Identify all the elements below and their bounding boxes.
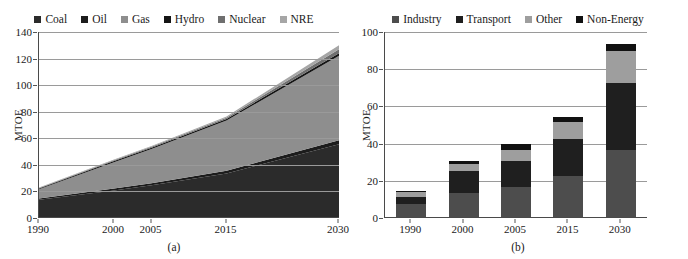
gridline [39,112,339,113]
bar-group-2000[interactable] [449,32,479,217]
bar-segment-non-energy[interactable] [396,191,426,192]
x-tick-label: 2000 [452,223,474,235]
y-tick-label: 80 [21,106,32,118]
bar-group-2005[interactable] [501,32,531,217]
legend-item-label: Coal [45,14,67,26]
bar-group-2030[interactable] [606,32,636,217]
legend-item-label: Transport [467,14,511,26]
legend-swatch-icon [34,16,41,23]
x-tick-label: 1990 [399,223,421,235]
y-tick-label: 100 [16,79,33,91]
y-tick-label: 0 [373,212,379,224]
x-tick-label: 2030 [609,223,631,235]
x-axis-ticks-a: 19902000200520152030 [38,219,338,235]
bar-segment-other[interactable] [449,164,479,171]
y-axis-ticks-b: 020406080100 [350,32,384,218]
bar-segment-transport[interactable] [501,161,531,187]
legend-item-label: Non-Energy [587,14,644,26]
y-tick-label: 80 [367,63,378,75]
plot-area-panel-a: MTOE 020406080100120140 1990200020052015… [0,32,348,218]
panel-b: IndustryTransportOtherNon-Energy MTOE 02… [348,0,688,259]
legend-item-nuclear[interactable]: Nuclear [218,14,265,26]
legend-item-label: Oil [92,14,107,26]
bar-segment-industry[interactable] [553,176,583,217]
legend-item-non-energy[interactable]: Non-Energy [576,14,644,26]
legend-item-label: NRE [291,14,314,26]
x-tick-label: 2015 [556,223,578,235]
y-tick-label: 140 [16,26,33,38]
legend-item-industry[interactable]: Industry [392,14,441,26]
legend-swatch-icon [164,16,171,23]
bar-segment-industry[interactable] [606,150,636,217]
bar-segment-other[interactable] [606,51,636,83]
panel-a: CoalOilGasHydroNuclearNRE MTOE 020406080… [0,0,348,259]
gridline [39,59,339,60]
legend-item-coal[interactable]: Coal [34,14,67,26]
y-tick-label: 100 [362,26,379,38]
x-tick-label: 2015 [215,223,237,235]
y-tick-label: 120 [16,53,33,65]
bar-group-2015[interactable] [553,32,583,217]
bar-segment-other[interactable] [553,122,583,139]
legend-swatch-icon [218,16,225,23]
x-tick-label: 2005 [140,223,162,235]
y-tick-label: 20 [21,185,32,197]
legend-swatch-icon [280,16,287,23]
gridline [39,165,339,166]
plot-area-panel-b: MTOE 020406080100 19902000200520152030 [348,32,688,218]
bar-segment-industry[interactable] [501,187,531,217]
legend-swatch-icon [81,16,88,23]
bar-segment-non-energy[interactable] [553,117,583,123]
plot-canvas-b [384,32,647,218]
legend-item-hydro[interactable]: Hydro [164,14,204,26]
legend-item-nre[interactable]: NRE [280,14,314,26]
plot-canvas-a [38,32,339,218]
caption-b: (b) [348,241,688,253]
legend-swatch-icon [525,16,532,23]
bar-segment-transport[interactable] [606,83,636,150]
y-tick-label: 20 [367,175,378,187]
bar-segment-transport[interactable] [449,171,479,193]
bar-group-1990[interactable] [396,32,426,217]
legend-swatch-icon [121,16,128,23]
figure-container: CoalOilGasHydroNuclearNRE MTOE 020406080… [0,0,688,259]
bar-segment-transport[interactable] [553,139,583,176]
y-tick-label: 60 [21,132,32,144]
bar-segment-other[interactable] [501,150,531,161]
legend-item-label: Other [536,14,562,26]
x-tick-label: 2005 [504,223,526,235]
gridline [39,85,339,86]
x-tick-label: 2000 [102,223,124,235]
legend-panel-a: CoalOilGasHydroNuclearNRE [0,14,348,26]
bar-segment-industry[interactable] [449,193,479,217]
x-tick-label: 2030 [327,223,349,235]
legend-item-label: Nuclear [229,14,265,26]
y-tick-label: 40 [21,159,32,171]
bar-segment-non-energy[interactable] [606,44,636,51]
bar-segment-non-energy[interactable] [501,144,531,150]
bar-segment-industry[interactable] [396,204,426,217]
legend-panel-b: IndustryTransportOtherNon-Energy [348,14,688,26]
caption-a: (a) [0,241,348,253]
legend-swatch-icon [456,16,463,23]
legend-item-transport[interactable]: Transport [456,14,511,26]
x-axis-ticks-b: 19902000200520152030 [384,219,646,235]
bar-segment-other[interactable] [396,192,426,197]
bar-segment-non-energy[interactable] [449,161,479,164]
gridline [39,32,339,33]
y-tick-label: 60 [367,100,378,112]
x-tick-label: 1990 [27,223,49,235]
legend-item-oil[interactable]: Oil [81,14,107,26]
legend-item-gas[interactable]: Gas [121,14,150,26]
gridline [39,138,339,139]
y-tick-label: 40 [367,138,378,150]
legend-item-label: Industry [403,14,441,26]
legend-swatch-icon [576,16,583,23]
bar-segment-transport[interactable] [396,197,426,204]
gridline [39,191,339,192]
legend-item-label: Hydro [175,14,204,26]
legend-swatch-icon [392,16,399,23]
legend-item-other[interactable]: Other [525,14,562,26]
y-axis-ticks-a: 020406080100120140 [4,32,38,218]
stacked-area-series [39,32,339,217]
